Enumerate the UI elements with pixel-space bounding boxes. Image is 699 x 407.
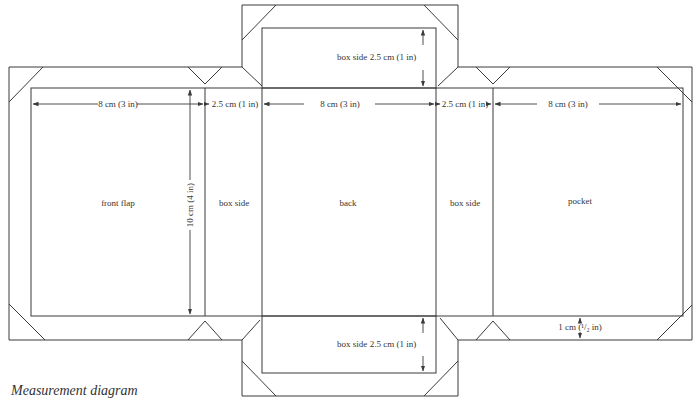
dim-right-side-width: 2.5 cm (1 in) xyxy=(442,99,489,109)
label-back: back xyxy=(340,198,357,208)
dim-margin: 1 cm (¹/₂ in) xyxy=(558,322,602,332)
label-front-flap: front flap xyxy=(101,198,135,208)
dim-bottom-side-height: 2.5 cm (1 in) xyxy=(370,339,417,349)
label-box-side-right: box side xyxy=(450,198,480,208)
dim-left-side-width: 2.5 cm (1 in) xyxy=(212,99,259,109)
dim-front-flap-width: 8 cm (3 in) xyxy=(98,99,138,109)
dim-back-width: 8 cm (3 in) xyxy=(320,99,360,109)
dim-height: 10 cm (4 in) xyxy=(185,183,195,227)
label-box-side-top: box side xyxy=(337,52,367,62)
box-template-diagram: front flap box side back box side pocket… xyxy=(0,0,699,407)
label-pocket: pocket xyxy=(568,196,592,206)
label-box-side-bottom: box side xyxy=(337,339,367,349)
dim-pocket-width: 8 cm (3 in) xyxy=(548,99,588,109)
dim-top-side-height: 2.5 cm (1 in) xyxy=(370,52,417,62)
diagram-caption: Measurement diagram xyxy=(11,383,138,399)
label-box-side-left: box side xyxy=(219,198,249,208)
